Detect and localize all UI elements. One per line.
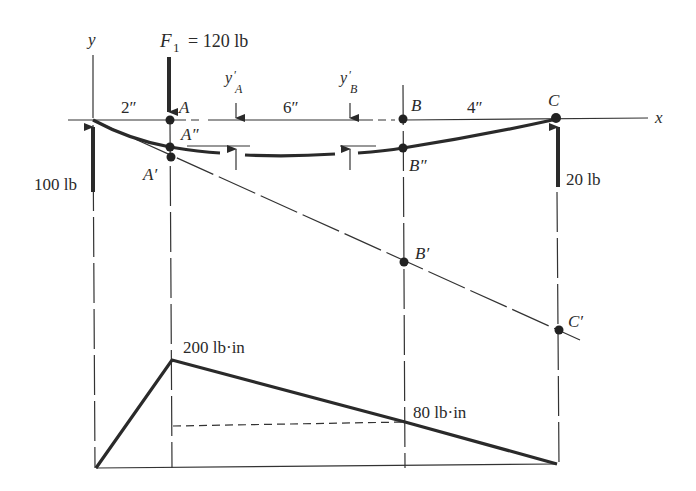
ya-prime-base: y <box>223 69 233 87</box>
label-c: C <box>548 91 560 110</box>
reaction-left-label: 100 lb <box>34 175 77 194</box>
point-b-double-prime <box>399 144 408 153</box>
reaction-right-label: 20 lb <box>566 170 600 189</box>
deflection-indicator-b <box>340 103 376 170</box>
label-b-double-prime: B″ <box>409 156 427 175</box>
point-c-prime <box>555 326 564 335</box>
y-axis-label: y <box>86 30 96 49</box>
tangent-line <box>93 120 580 340</box>
label-b: B <box>411 96 422 115</box>
yb-prime-sub: B <box>350 82 358 96</box>
x-axis <box>68 118 648 120</box>
projection-lines <box>93 85 559 468</box>
elastic-curve-mid <box>245 154 335 156</box>
ya-prime-mark: ′ <box>234 68 237 82</box>
point-c <box>551 113 561 123</box>
yb-prime-base: y <box>338 69 348 87</box>
point-b-prime <box>400 258 409 267</box>
point-a-double-prime <box>166 143 175 152</box>
ya-prime-sub: A <box>234 82 243 96</box>
moment-diagram <box>96 360 557 468</box>
beam-deflection-diagram: y x F 1 = 120 lb 2″ 6″ 4″ y ′ A y ′ B A … <box>0 0 696 491</box>
yb-prime-mark: ′ <box>349 68 352 82</box>
label-a-prime: A′ <box>142 165 157 184</box>
moment-peak-label: 200 lb·in <box>183 338 245 357</box>
force-value: = 120 lb <box>188 31 248 51</box>
force-symbol: F <box>159 30 172 51</box>
dimension-4in: 4″ <box>467 98 483 117</box>
label-a: A <box>178 98 190 117</box>
force-subscript: 1 <box>173 40 180 55</box>
diagram-svg: y x F 1 = 120 lb 2″ 6″ 4″ y ′ A y ′ B A … <box>0 0 696 491</box>
dimension-6in: 6″ <box>283 98 299 117</box>
x-axis-label: x <box>654 108 663 127</box>
label-a-double-prime: A″ <box>180 125 199 144</box>
point-a <box>166 116 175 125</box>
label-b-prime: B′ <box>415 244 429 263</box>
moment-b-label: 80 lb·in <box>413 403 467 422</box>
point-a-prime <box>167 153 176 162</box>
dimension-2in: 2″ <box>121 98 137 117</box>
label-c-prime: C′ <box>568 312 583 331</box>
elastic-curve-right <box>358 119 557 153</box>
point-b <box>399 115 408 124</box>
